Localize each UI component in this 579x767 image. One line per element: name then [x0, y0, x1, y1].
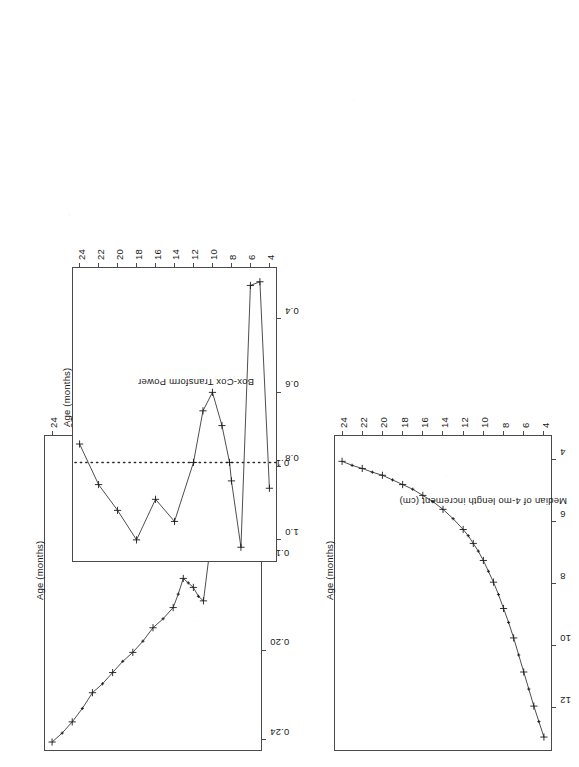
x-tick-label: 22 [95, 249, 106, 260]
x-tick-label: 16 [419, 417, 430, 428]
x-tick-label: 6 [520, 423, 531, 428]
y-tick [277, 392, 281, 393]
y-tick [277, 539, 281, 540]
x-tick [382, 431, 383, 435]
x-tick-label: 20 [114, 249, 125, 260]
y-tick-label: 8 [560, 571, 565, 582]
x-tick [193, 263, 194, 267]
y-axis-title-boxcox-power: Box-Cox Transform Power [138, 377, 254, 388]
x-tick [269, 263, 270, 267]
x-tick [362, 431, 363, 435]
x-tick-label: 18 [133, 249, 144, 260]
x-tick-label: 8 [227, 255, 238, 260]
y-tick [552, 521, 556, 522]
x-tick [79, 263, 80, 267]
x-tick-label: 16 [152, 249, 163, 260]
x-tick-label: 20 [378, 417, 389, 428]
y-tick-label: 12 [560, 695, 571, 706]
y-tick-label: 1.0 [285, 527, 299, 538]
x-axis-title-median-increment: Age (months) [324, 541, 335, 600]
x-tick-label: 6 [246, 255, 257, 260]
y-tick [552, 707, 556, 708]
x-tick [212, 263, 213, 267]
x-tick [231, 263, 232, 267]
y-tick [552, 645, 556, 646]
x-axis-title-boxcox-power: Age (months) [61, 368, 72, 427]
x-tick-label: 18 [399, 417, 410, 428]
x-tick-label: 24 [338, 417, 349, 428]
y-tick-label: 0.4 [285, 306, 299, 317]
y-tick-label: 0.6 [285, 379, 299, 390]
x-tick [483, 431, 484, 435]
panel-median-increment: 4681012141618202224 4681012 Age (months)… [290, 384, 579, 767]
x-tick-label: 24 [76, 249, 87, 260]
y-tick [277, 318, 281, 319]
y-tick [277, 466, 281, 467]
x-tick-label: 14 [439, 417, 450, 428]
x-tick [342, 431, 343, 435]
x-tick-label: 14 [171, 249, 182, 260]
y-tick [262, 739, 266, 740]
y-tick-label: 4 [560, 447, 565, 458]
x-tick [422, 431, 423, 435]
x-tick-label: 10 [208, 249, 219, 260]
x-tick-label: 4 [540, 423, 551, 428]
x-tick [463, 431, 464, 435]
x-tick-label: 12 [459, 417, 470, 428]
x-tick-label: 22 [358, 417, 369, 428]
y-axis-title-median-increment: Median of 4-mo length increment (cm) [399, 496, 567, 507]
x-tick-label: 8 [500, 423, 511, 428]
y-tick-label: 0.8 [285, 453, 299, 464]
x-tick [117, 263, 118, 267]
x-tick [250, 263, 251, 267]
x-tick-label: 10 [479, 417, 490, 428]
x-tick [136, 263, 137, 267]
y-tick-label: 6 [560, 509, 565, 520]
x-tick [523, 431, 524, 435]
panel-boxcox-power: 4681012141618202224 0.40.60.81.0 Age (mo… [0, 0, 290, 384]
y-tick-label: 0.20 [270, 637, 289, 648]
x-tick [174, 263, 175, 267]
x-tick [443, 431, 444, 435]
figure-sheet: 4681012141618202224 4681012 Age (months)… [0, 0, 579, 767]
y-tick [552, 583, 556, 584]
y-tick-label: 0.24 [270, 727, 289, 738]
x-tick-label: 12 [189, 249, 200, 260]
y-tick-label: 10 [560, 633, 571, 644]
x-tick [98, 263, 99, 267]
x-tick [503, 431, 504, 435]
x-tick [402, 431, 403, 435]
y-tick [552, 459, 556, 460]
x-tick [543, 431, 544, 435]
x-tick-label: 4 [265, 255, 276, 260]
y-tick [262, 650, 266, 651]
x-tick [155, 263, 156, 267]
